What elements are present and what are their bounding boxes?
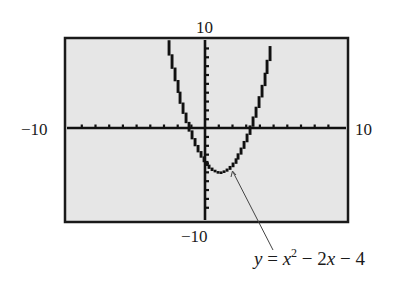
x-tick bbox=[177, 125, 179, 129]
y-tick bbox=[205, 136, 209, 138]
xmin-label: −10 bbox=[21, 121, 48, 138]
x-tick bbox=[108, 125, 110, 129]
eq-coef: 2 bbox=[317, 248, 327, 269]
x-tick bbox=[94, 125, 96, 129]
x-tick bbox=[273, 125, 275, 129]
y-tick bbox=[205, 198, 209, 200]
y-tick bbox=[205, 145, 209, 147]
y-tick bbox=[205, 74, 209, 76]
ymax-label: 10 bbox=[196, 19, 213, 36]
y-tick bbox=[205, 109, 209, 111]
x-tick bbox=[259, 125, 261, 129]
x-tick bbox=[327, 125, 329, 129]
ymin-label: −10 bbox=[181, 228, 208, 245]
calculator-screen bbox=[0, 0, 417, 287]
y-tick bbox=[205, 65, 209, 67]
x-tick bbox=[314, 125, 316, 129]
graph-figure: 10 −10 −10 10 y = x2 − 2x − 4 bbox=[0, 0, 417, 287]
x-tick bbox=[286, 125, 288, 129]
x-tick bbox=[218, 125, 220, 129]
eq-x: x bbox=[283, 248, 291, 269]
x-tick bbox=[149, 125, 151, 129]
eq-exponent: 2 bbox=[291, 246, 297, 260]
eq-equals: = bbox=[262, 248, 282, 269]
x-tick bbox=[300, 125, 302, 129]
x-tick bbox=[122, 125, 124, 129]
x-tick bbox=[163, 125, 165, 129]
y-tick bbox=[205, 47, 209, 49]
y-tick bbox=[205, 154, 209, 156]
y-tick bbox=[205, 83, 209, 85]
xmax-label: 10 bbox=[355, 121, 372, 138]
x-tick bbox=[245, 125, 247, 129]
x-tick bbox=[231, 125, 233, 129]
equation-label: y = x2 − 2x − 4 bbox=[254, 249, 365, 268]
y-tick bbox=[205, 171, 209, 173]
eq-minus-2: − bbox=[335, 248, 355, 269]
x-tick bbox=[81, 125, 83, 129]
y-tick bbox=[205, 92, 209, 94]
y-tick bbox=[205, 118, 209, 120]
y-tick bbox=[205, 189, 209, 191]
x-tick bbox=[136, 125, 138, 129]
y-tick bbox=[205, 56, 209, 58]
x-tick bbox=[190, 125, 192, 129]
eq-x-2: x bbox=[327, 248, 335, 269]
y-tick bbox=[205, 100, 209, 102]
y-tick bbox=[205, 207, 209, 209]
eq-const: 4 bbox=[355, 248, 365, 269]
eq-minus-1: − bbox=[297, 248, 317, 269]
y-tick bbox=[205, 180, 209, 182]
